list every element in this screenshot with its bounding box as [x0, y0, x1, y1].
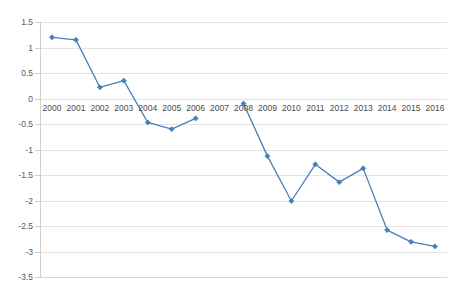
x-axis-label: 2014	[378, 104, 397, 113]
y-axis-tick	[35, 124, 41, 125]
x-axis-label: 2004	[138, 104, 157, 113]
y-axis-tick	[35, 252, 41, 253]
y-axis-label: -3.5	[18, 273, 33, 282]
line-chart: 1.510.50-0.5-1-1.5-2-2.5-3-3.52000200120…	[0, 0, 455, 295]
x-axis-label: 2006	[186, 104, 205, 113]
y-axis-tick	[35, 99, 41, 100]
y-axis-label: -0.5	[18, 120, 33, 129]
x-axis-label: 2012	[330, 104, 349, 113]
x-axis-label: 2013	[354, 104, 373, 113]
x-axis-label: 2001	[66, 104, 85, 113]
y-axis-label: -1.5	[18, 171, 33, 180]
y-axis-tick	[35, 48, 41, 49]
x-axis-label: 2003	[114, 104, 133, 113]
y-axis-label: -1	[25, 145, 33, 154]
x-axis-label: 2011	[306, 104, 324, 113]
data-point-marker	[169, 127, 174, 132]
data-point-marker	[361, 166, 366, 171]
y-axis-tick	[35, 150, 41, 151]
x-axis-label: 2016	[426, 104, 445, 113]
x-axis-label: 2007	[210, 104, 229, 113]
data-point-marker	[408, 239, 413, 244]
x-axis-label: 2010	[282, 104, 301, 113]
y-axis-label: 1.5	[21, 18, 33, 27]
y-axis-label: 1	[28, 43, 33, 52]
y-axis-label: -2.5	[18, 222, 33, 231]
y-axis-tick	[35, 22, 41, 23]
y-axis-tick	[35, 277, 41, 278]
y-axis-label: 0	[28, 94, 33, 103]
y-axis-label: -2	[25, 196, 33, 205]
data-point-marker	[97, 85, 102, 90]
y-axis-tick	[35, 201, 41, 202]
y-axis-tick	[35, 175, 41, 176]
data-point-marker	[193, 116, 198, 121]
data-point-marker	[121, 78, 126, 83]
x-axis-label: 2002	[90, 104, 109, 113]
data-point-marker	[432, 244, 437, 249]
series-line	[52, 37, 435, 246]
x-axis-label: 2000	[43, 104, 62, 113]
data-point-marker	[265, 154, 270, 159]
data-point-marker	[49, 35, 54, 40]
data-point-marker	[145, 120, 150, 125]
x-axis-label: 2005	[162, 104, 181, 113]
data-point-marker	[73, 37, 78, 42]
x-axis-label: 2009	[258, 104, 277, 113]
y-axis-tick	[35, 73, 41, 74]
data-point-marker	[385, 227, 390, 232]
y-axis-label: 0.5	[21, 69, 33, 78]
series-layer	[0, 0, 455, 295]
y-axis-label: -3	[25, 247, 33, 256]
x-axis-label: 2015	[402, 104, 421, 113]
y-axis-tick	[35, 226, 41, 227]
x-axis-label: 2008	[234, 104, 253, 113]
